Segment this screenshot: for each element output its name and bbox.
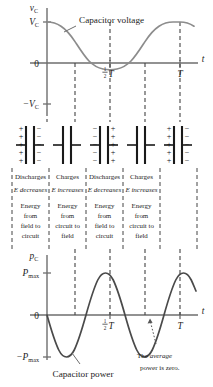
halfT-numerator-top: 1 — [104, 66, 107, 72]
capacitor-5-minus-5: − — [185, 156, 190, 165]
table-state-cell-1: Discharges — [15, 173, 46, 181]
power-caption: Capacitor power — [53, 369, 114, 379]
capacitor-3-plus-5: + — [111, 156, 116, 165]
energy-4-line-1: Energy — [132, 202, 152, 209]
voltage-annotation-label: Capacitor voltage — [79, 15, 144, 25]
halfT-symbol-top: T — [109, 69, 115, 79]
halfT-symbol-bottom: T — [109, 321, 115, 331]
energy-1-line-4: circuit — [22, 232, 40, 239]
energy-1-line-2: from — [24, 212, 38, 219]
table-state-cell-2: Charges — [56, 173, 79, 181]
table-field-cell-2: E increases — [50, 186, 83, 194]
halfT-denominator-top: 2 — [104, 73, 107, 79]
capacitor-1-plus-5: + — [19, 156, 24, 165]
energy-4-line-2: from — [135, 212, 149, 219]
energy-3-line-3: field to — [95, 222, 115, 229]
energy-2-line-3: circuit to — [55, 222, 80, 229]
energy-2-line-1: Energy — [58, 202, 78, 209]
table-field-cell-4: E increases — [124, 186, 157, 194]
capacitor-voltage-power-figure: vC VC 0 −VC 1 2 T T t Capacitor voltage … — [0, 0, 213, 387]
capacitor-1-minus-5: − — [37, 156, 42, 165]
energy-3-line-4: circuit — [96, 232, 114, 239]
energy-2-line-2: from — [61, 212, 75, 219]
energy-2-line-4: field — [61, 232, 74, 239]
voltage-x-axis-label: t — [202, 54, 205, 64]
table-field-cell-3: E decreases — [87, 186, 122, 194]
average-power-annotation-line-1: The average — [137, 352, 172, 360]
capacitor-3-minus-5: − — [93, 156, 98, 165]
table-field-cell-1: E decreases — [13, 186, 48, 194]
power-x-axis-label: t — [202, 306, 205, 316]
halfT-denominator-bottom: 2 — [104, 325, 107, 331]
power-xtick-label-T: T — [177, 321, 183, 331]
average-power-annotation-line-2: power is zero. — [140, 364, 180, 372]
voltage-ytick-label-zero: 0 — [34, 59, 39, 69]
energy-3-line-1: Energy — [95, 202, 115, 209]
halfT-numerator-bottom: 1 — [104, 318, 107, 324]
energy-4-line-4: field — [135, 232, 148, 239]
voltage-xtick-label-T: T — [177, 69, 183, 79]
energy-1-line-3: field to — [21, 222, 41, 229]
power-ytick-label-zero: 0 — [34, 311, 39, 321]
figure-svg: vC VC 0 −VC 1 2 T T t Capacitor voltage … — [0, 0, 213, 387]
energy-4-line-3: circuit to — [129, 222, 154, 229]
capacitor-5-plus-5: + — [167, 156, 172, 165]
table-state-cell-3: Discharges — [89, 173, 120, 181]
energy-3-line-2: from — [98, 212, 112, 219]
table-state-cell-4: Charges — [130, 173, 153, 181]
energy-1-line-1: Energy — [21, 202, 41, 209]
